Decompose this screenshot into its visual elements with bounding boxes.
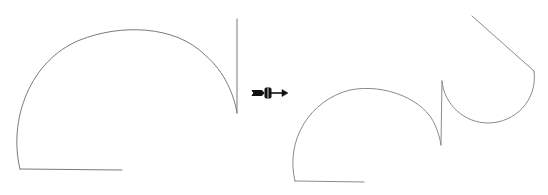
after-small-arc <box>442 71 534 123</box>
after-shape <box>293 16 535 182</box>
after-vertical-line <box>441 81 442 145</box>
before-shape <box>17 19 237 170</box>
after-base-line <box>295 181 364 182</box>
after-diagonal-line <box>472 16 534 71</box>
after-large-arc <box>293 88 441 181</box>
before-large-arc <box>17 30 237 169</box>
diagram-canvas <box>0 0 548 195</box>
before-base-line <box>20 169 122 170</box>
transform-arrow-icon <box>252 88 288 98</box>
